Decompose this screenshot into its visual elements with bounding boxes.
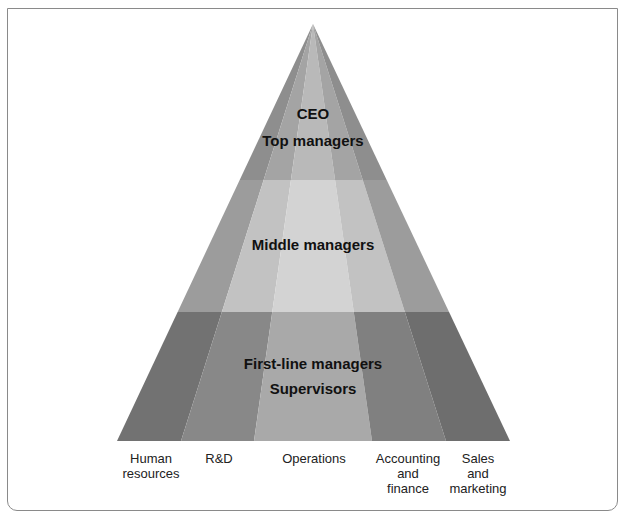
label-line: resources <box>106 466 196 481</box>
tier-label-supervisors: Supervisors <box>0 380 626 398</box>
tier-label-ceo: CEO <box>0 105 626 123</box>
label-line: and <box>433 466 523 481</box>
pyramid-cell-bottom-2 <box>254 312 372 441</box>
column-label-sales-marketing: Sales and marketing <box>433 451 523 496</box>
label-line: R&D <box>174 451 264 466</box>
column-label-operations: Operations <box>269 451 359 466</box>
tier-label-top-managers: Top managers <box>0 132 626 150</box>
column-label-rd: R&D <box>174 451 264 466</box>
org-pyramid <box>0 0 626 516</box>
label-line: Sales <box>433 451 523 466</box>
tier-label-middle-managers: Middle managers <box>0 236 626 254</box>
tier-label-first-line-managers: First-line managers <box>0 355 626 373</box>
label-line: Operations <box>269 451 359 466</box>
label-line: marketing <box>433 481 523 496</box>
